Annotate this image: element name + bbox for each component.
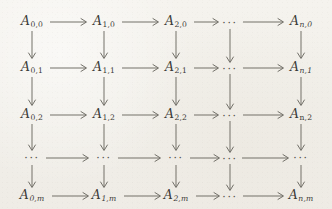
ellipsis-r3c2: ···	[168, 153, 183, 164]
node-subscript: 1,1	[103, 66, 116, 75]
ellipsis-r3c4: ···	[293, 153, 308, 164]
ellipsis-r4c3: ···	[222, 192, 237, 203]
node-r0c0: A0,0	[21, 15, 43, 29]
node-r4c1: A1,m	[92, 189, 117, 203]
node-base: A	[165, 106, 175, 121]
ellipsis-r1c3: ···	[222, 64, 237, 75]
node-base: A	[289, 187, 299, 202]
ellipsis-r3c3: ···	[222, 154, 237, 165]
node-r4c4: An,m	[289, 189, 314, 203]
node-subscript: 0,m	[29, 194, 44, 203]
node-r0c4: An,0	[290, 15, 312, 29]
node-r2c0: A0,2	[21, 108, 43, 122]
node-subscript: n,0	[300, 20, 313, 29]
node-subscript: 1,0	[103, 20, 116, 29]
node-base: A	[290, 13, 300, 28]
node-subscript: 0,0	[31, 20, 44, 29]
node-subscript: 0,1	[31, 66, 44, 75]
node-base: A	[93, 59, 103, 74]
node-subscript: n,1	[300, 66, 313, 75]
node-base: A	[92, 187, 102, 202]
node-base: A	[93, 106, 103, 121]
node-r1c0: A0,1	[21, 61, 43, 75]
node-r2c2: A2,2	[165, 108, 187, 122]
node-subscript: 1,2	[103, 113, 116, 122]
node-base: A	[21, 13, 31, 28]
node-base: A	[290, 106, 300, 121]
node-r1c4: An,1	[290, 61, 312, 75]
node-base: A	[21, 106, 31, 121]
ellipsis-r3c0: ···	[24, 153, 39, 164]
node-r4c2: A2,m	[164, 189, 189, 203]
node-base: A	[20, 187, 30, 202]
node-subscript: 2,m	[173, 194, 188, 203]
node-subscript: 2,1	[175, 66, 188, 75]
node-base: A	[164, 187, 174, 202]
node-r1c1: A1,1	[93, 61, 115, 75]
node-base: A	[290, 59, 300, 74]
node-r2c4: An,2	[290, 108, 312, 122]
node-subscript: 1,m	[101, 194, 116, 203]
node-base: A	[165, 59, 175, 74]
node-subscript: 2,0	[175, 20, 188, 29]
ellipsis-r0c3: ···	[222, 18, 237, 29]
node-r2c1: A1,2	[93, 108, 115, 122]
node-base: A	[165, 13, 175, 28]
node-r4c0: A0,m	[20, 189, 45, 203]
node-base: A	[21, 59, 31, 74]
node-subscript: 2,2	[175, 113, 188, 122]
node-subscript: 0,2	[31, 113, 44, 122]
node-r1c2: A2,1	[165, 61, 187, 75]
commutative-diagram: A0,0 A1,0 A2,0 ··· An,0 A0,1 A1,1 A2,1 ·…	[0, 0, 332, 209]
ellipsis-r2c3: ···	[222, 111, 237, 122]
node-r0c2: A2,0	[165, 15, 187, 29]
nodes-layer: A0,0 A1,0 A2,0 ··· An,0 A0,1 A1,1 A2,1 ·…	[0, 0, 332, 209]
node-base: A	[93, 13, 103, 28]
node-subscript: n,m	[298, 194, 313, 203]
ellipsis-r3c1: ···	[96, 153, 111, 164]
node-r0c1: A1,0	[93, 15, 115, 29]
node-subscript: n,2	[300, 113, 313, 122]
